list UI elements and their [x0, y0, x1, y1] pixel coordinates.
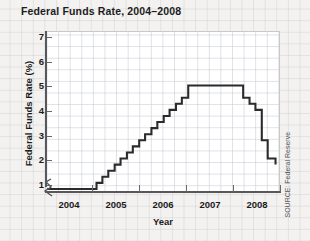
x-tick-label-2006: 2006	[140, 199, 186, 210]
x-axis-title: Year	[45, 216, 281, 227]
y-tick-4	[47, 111, 52, 112]
axis-break-icon	[40, 178, 56, 198]
x-tick-label-2004: 2004	[46, 199, 92, 210]
x-tick-label-2008: 2008	[234, 199, 280, 210]
y-tick-6	[47, 62, 52, 63]
y-axis-title: Federal Funds Rate (%)	[23, 39, 34, 189]
y-tick-5	[47, 86, 52, 87]
plot-area	[45, 31, 280, 193]
y-tick-7	[47, 37, 52, 38]
x-tick-2006	[186, 185, 187, 192]
source-credit: SOURCE: Federal Reserve	[284, 110, 291, 218]
y-tick-3	[47, 136, 52, 137]
x-axis-line	[45, 191, 281, 193]
x-tick-label-2007: 2007	[187, 199, 233, 210]
y-tick-2	[47, 160, 52, 161]
chart-title: Federal Funds Rate, 2004–2008	[21, 5, 181, 17]
x-tick-2004	[92, 185, 93, 192]
figure-background: Federal Funds Rate, 2004–2008 7 6 5 4 3 …	[0, 0, 310, 241]
x-tick-2005	[139, 185, 140, 192]
x-tick-2007	[233, 185, 234, 192]
x-tick-2008	[280, 185, 281, 192]
x-tick-label-2005: 2005	[93, 199, 139, 210]
chart-figure: Federal Funds Rate, 2004–2008 7 6 5 4 3 …	[0, 0, 310, 241]
series-federal-funds-rate	[46, 32, 279, 193]
y-axis-line	[45, 31, 47, 187]
